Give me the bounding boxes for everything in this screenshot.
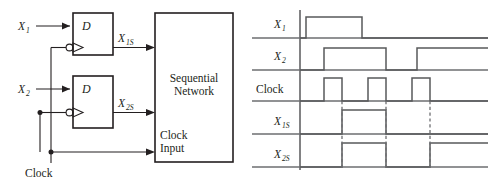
waveform-x2 xyxy=(252,48,488,70)
clock-junction-dot-main xyxy=(49,150,54,155)
sequential-network-title-line2: Network xyxy=(174,85,214,97)
timing-diagram: X 1 X 2 Clock X 1S X 2S xyxy=(244,0,488,183)
x2s-sublabel: 2S xyxy=(126,103,134,112)
flipflop-2-box xyxy=(73,76,113,128)
x1-arrowhead xyxy=(62,23,70,30)
logic-figure: X 1 D X 1S X 2 D xyxy=(0,0,488,183)
timing-sublabel-x2: 2 xyxy=(282,56,286,65)
x2s-output-wire xyxy=(113,109,155,116)
circuit-diagram: X 1 D X 1S X 2 D xyxy=(0,0,244,183)
flipflop-2-clock-input xyxy=(40,108,83,117)
flipflop-1-clock-input xyxy=(51,43,83,52)
timing-label-x1: X xyxy=(273,18,282,30)
waveform-clock xyxy=(252,78,488,101)
x1-input-label: X xyxy=(17,20,26,32)
x1s-label: X xyxy=(117,32,126,44)
clock-input-arrowhead xyxy=(146,149,155,156)
sequential-network-title-line1: Sequential xyxy=(170,72,219,85)
x2s-arrowhead xyxy=(146,109,155,116)
x2-input-sublabel: 2 xyxy=(26,89,30,98)
clock-distribution-wires xyxy=(38,48,156,164)
x1s-sublabel: 1S xyxy=(126,38,134,47)
x2-arrowhead xyxy=(62,86,70,93)
timing-sublabel-x1: 1 xyxy=(282,24,286,33)
x2-input-wire xyxy=(36,86,70,93)
timing-sublabel-x2s: 2S xyxy=(282,154,290,163)
x2s-label: X xyxy=(117,97,126,109)
timing-label-clock: Clock xyxy=(256,83,284,95)
timing-label-x1s: X xyxy=(273,115,282,127)
x1s-arrowhead xyxy=(146,44,155,51)
flipflop-2-d-label: D xyxy=(81,82,91,96)
timing-label-x2s: X xyxy=(273,148,282,160)
flipflop-1-d-label: D xyxy=(81,19,91,33)
x1-input-sublabel: 1 xyxy=(26,26,30,35)
clock-input-label-line1: Clock xyxy=(160,129,188,141)
x2-input-label: X xyxy=(17,83,26,95)
timing-sublabel-x1s: 1S xyxy=(282,121,290,130)
waveform-x1 xyxy=(252,17,488,38)
clock-label: Clock xyxy=(25,167,53,179)
x1-input-wire xyxy=(36,23,70,30)
x1s-output-wire xyxy=(113,44,155,51)
timing-label-x2: X xyxy=(273,50,282,62)
clock-input-label-line2: Input xyxy=(160,142,185,155)
